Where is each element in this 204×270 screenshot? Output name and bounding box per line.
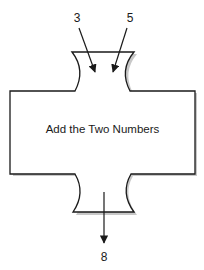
input-label-2: 5	[127, 12, 134, 24]
input-label-1: 3	[74, 12, 81, 24]
output-label: 8	[101, 251, 108, 263]
process-label: Add the Two Numbers	[12, 124, 193, 136]
